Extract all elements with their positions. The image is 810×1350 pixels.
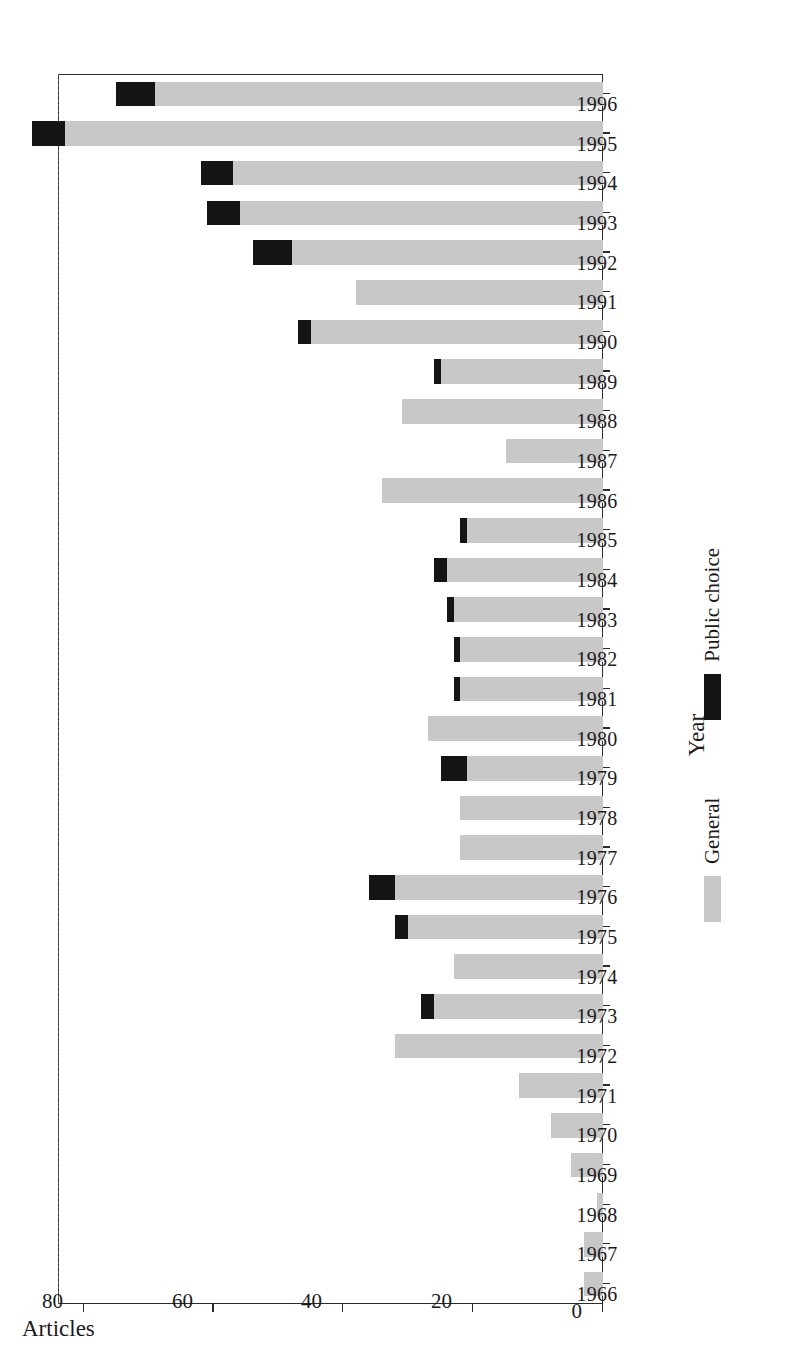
bar-segment-general-1990 [311, 320, 603, 345]
bar-segment-public-choice-1993 [207, 201, 239, 226]
category-label-1969: 1969 [577, 1165, 618, 1185]
bar-1976 [369, 875, 603, 900]
bar-1993 [207, 201, 603, 226]
category-label-1981: 1981 [577, 689, 618, 709]
bar-1992 [253, 240, 603, 265]
bar-segment-public-choice-1992 [253, 240, 292, 265]
category-label-1973: 1973 [577, 1006, 618, 1026]
category-label-1987: 1987 [577, 451, 618, 471]
category-label-1972: 1972 [577, 1046, 618, 1066]
value-tick-20 [472, 1304, 473, 1312]
bar-segment-public-choice-1996 [116, 82, 155, 107]
category-label-1992: 1992 [577, 253, 618, 273]
bar-1991 [356, 280, 603, 305]
category-label-1968: 1968 [577, 1205, 618, 1225]
bar-segment-public-choice-1976 [369, 875, 395, 900]
category-label-1970: 1970 [577, 1125, 618, 1145]
bar-segment-general-1991 [356, 280, 603, 305]
category-label-1967: 1967 [577, 1244, 618, 1264]
value-tick-80 [83, 1304, 84, 1312]
bar-segment-public-choice-1994 [201, 161, 233, 186]
bar-segment-public-choice-1975 [395, 915, 408, 940]
legend-item-public-choice: Public choice [700, 548, 725, 720]
legend-swatch-public-choice-icon [704, 674, 721, 720]
category-label-1980: 1980 [577, 729, 618, 749]
bar-segment-general-1995 [65, 121, 604, 146]
chart-legend: General Public choice [700, 120, 725, 1350]
bar-1986 [382, 478, 603, 503]
value-tick-60 [212, 1304, 213, 1312]
category-label-1976: 1976 [577, 887, 618, 907]
bar-1995 [32, 121, 603, 146]
bar-1975 [395, 915, 603, 940]
legend-item-general: General [700, 798, 725, 922]
bar-1996 [116, 82, 603, 107]
category-label-1996: 1996 [577, 94, 618, 114]
category-label-1995: 1995 [577, 134, 618, 154]
bar-series-group [58, 74, 603, 1304]
category-label-1986: 1986 [577, 491, 618, 511]
bar-segment-public-choice-1990 [298, 320, 311, 345]
category-label-1977: 1977 [577, 848, 618, 868]
category-label-1989: 1989 [577, 372, 618, 392]
category-label-1993: 1993 [577, 213, 618, 233]
category-label-1984: 1984 [577, 570, 618, 590]
category-label-1966: 1966 [577, 1284, 618, 1304]
category-label-1971: 1971 [577, 1086, 618, 1106]
value-tick-0 [602, 1304, 603, 1312]
bar-segment-general-1988 [402, 399, 603, 424]
category-label-1990: 1990 [577, 332, 618, 352]
category-label-1994: 1994 [577, 173, 618, 193]
bar-segment-general-1975 [408, 915, 603, 940]
bar-segment-public-choice-1979 [441, 756, 467, 781]
value-tick-40 [342, 1304, 343, 1312]
bar-1990 [298, 320, 603, 345]
rotated-figure-container: 020406080 196619671968196919701971197219… [0, 0, 810, 1350]
chart-figure: 020406080 196619671968196919701971197219… [0, 0, 810, 1350]
category-label-1988: 1988 [577, 411, 618, 431]
bar-segment-general-1994 [233, 161, 603, 186]
bar-segment-public-choice-1984 [434, 558, 447, 583]
bar-1988 [402, 399, 603, 424]
bar-segment-public-choice-1995 [32, 121, 64, 146]
value-axis-title: Articles [22, 1316, 95, 1342]
bar-segment-general-1996 [155, 82, 603, 107]
category-label-1991: 1991 [577, 292, 618, 312]
category-label-1983: 1983 [577, 610, 618, 630]
category-label-1974: 1974 [577, 967, 618, 987]
legend-label-public-choice: Public choice [700, 548, 725, 662]
bar-segment-general-1976 [395, 875, 603, 900]
bar-1972 [395, 1034, 603, 1059]
bar-segment-general-1986 [382, 478, 603, 503]
legend-swatch-general-icon [704, 876, 721, 922]
plot-wrapper: 020406080 196619671968196919701971197219… [58, 74, 603, 1304]
bar-segment-general-1993 [240, 201, 603, 226]
bar-segment-general-1972 [395, 1034, 603, 1059]
bar-segment-general-1992 [292, 240, 603, 265]
bar-1994 [201, 161, 603, 186]
category-label-1982: 1982 [577, 649, 618, 669]
category-label-1979: 1979 [577, 768, 618, 788]
legend-label-general: General [700, 798, 725, 864]
category-label-1978: 1978 [577, 808, 618, 828]
category-label-1985: 1985 [577, 530, 618, 550]
category-label-1975: 1975 [577, 927, 618, 947]
bar-segment-public-choice-1973 [421, 994, 434, 1019]
